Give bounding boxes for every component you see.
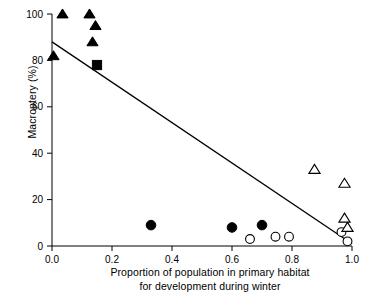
marker-circle-open (246, 235, 255, 244)
marker-triangle-filled (90, 21, 101, 30)
marker-circle-filled (146, 220, 156, 230)
marker-triangle-open (339, 178, 350, 187)
marker-circle-open (343, 237, 352, 246)
x-tick-label: 1.0 (345, 254, 359, 265)
regression-line (52, 42, 352, 244)
chart-figure: Macroptery (%) Proportion of population … (0, 0, 380, 304)
y-tick-label: 80 (32, 55, 44, 66)
marker-square-filled (92, 60, 101, 69)
x-tick-label: 0.4 (165, 254, 179, 265)
y-tick-label: 40 (32, 148, 44, 159)
y-tick-label: 60 (32, 101, 44, 112)
marker-circle-filled (227, 223, 237, 233)
x-tick-label: 0.0 (45, 254, 59, 265)
y-tick-label: 0 (37, 241, 43, 252)
marker-circle-open (271, 232, 280, 241)
marker-triangle-filled (87, 37, 98, 46)
x-tick-label: 0.8 (285, 254, 299, 265)
marker-circle-open (285, 232, 294, 241)
marker-triangle-filled (48, 51, 59, 60)
marker-triangle-filled (84, 9, 95, 18)
y-tick-label: 100 (26, 9, 43, 20)
x-tick-label: 0.6 (225, 254, 239, 265)
marker-triangle-open (309, 164, 320, 173)
x-tick-label: 0.2 (105, 254, 119, 265)
marker-circle-filled (257, 220, 267, 230)
marker-triangle-open (342, 222, 353, 231)
scatter-plot: 0.00.20.40.60.81.0020406080100 (0, 0, 380, 304)
marker-triangle-open (339, 213, 350, 222)
y-tick-label: 20 (32, 194, 44, 205)
marker-triangle-filled (57, 9, 68, 18)
